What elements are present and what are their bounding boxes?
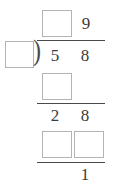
step2-subtraction-rule [37,162,105,163]
remainder-digit: 1 [75,165,95,185]
dividend-tens-digit: 5 [45,46,65,66]
quotient-tens-blank-box[interactable] [42,10,72,37]
step1-difference-tens-digit: 2 [45,106,65,126]
divisor-blank-box[interactable] [5,41,34,68]
quotient-ones-digit: 9 [76,14,96,34]
division-vinculum-rule [37,40,105,41]
step1-difference-ones-digit: 8 [75,106,95,126]
step2-subtrahend-tens-blank-box[interactable] [42,131,72,158]
dividend-ones-digit: 8 [75,46,95,66]
long-division-problem: 9 ) 5 8 2 8 1 [0,0,113,187]
step1-subtrahend-blank-box[interactable] [42,73,72,100]
step1-subtraction-rule [37,103,105,104]
step2-subtrahend-ones-blank-box[interactable] [74,131,104,158]
